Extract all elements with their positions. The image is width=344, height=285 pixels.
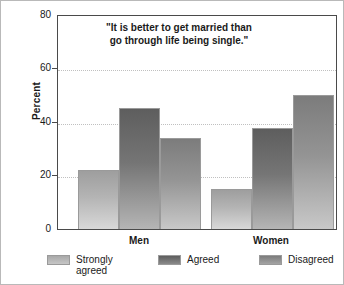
legend-swatch-agreed bbox=[158, 255, 181, 265]
bar-chart-figure: Percent 80 60 40 20 0 "It is better to g… bbox=[0, 0, 344, 285]
gridline-60 bbox=[58, 70, 336, 71]
y-tick-label-20: 20 bbox=[23, 170, 51, 180]
legend-item-agreed: Agreed bbox=[158, 254, 219, 265]
legend-swatch-disagreed bbox=[259, 255, 282, 265]
legend-swatch-strongly-agreed bbox=[47, 255, 70, 265]
bar-women-agreed bbox=[252, 128, 293, 229]
legend-item-strongly-agreed: Strongly agreed bbox=[47, 254, 113, 276]
bar-men-strongly-agreed bbox=[78, 170, 119, 229]
chart-legend: Strongly agreed Agreed Disagreed bbox=[1, 254, 344, 285]
chart-title-line-1: "It is better to get married than bbox=[79, 21, 279, 34]
y-tick-label-80: 80 bbox=[23, 10, 51, 20]
chart-title-line-2: go through life being single." bbox=[79, 34, 279, 47]
y-tick-label-60: 60 bbox=[23, 63, 51, 73]
category-label-men: Men bbox=[94, 235, 184, 246]
y-tick-label-40: 40 bbox=[23, 117, 51, 127]
y-tick-label-0: 0 bbox=[23, 224, 51, 234]
bar-men-agreed bbox=[119, 108, 160, 229]
chart-title: "It is better to get married than go thr… bbox=[79, 21, 279, 47]
bar-women-disagreed bbox=[293, 95, 334, 229]
legend-label-agreed: Agreed bbox=[187, 254, 219, 265]
legend-item-disagreed: Disagreed bbox=[259, 254, 334, 265]
bar-men-disagreed bbox=[160, 138, 201, 229]
legend-label-disagreed: Disagreed bbox=[288, 254, 334, 265]
legend-label-strongly-agreed: Strongly agreed bbox=[76, 254, 113, 276]
plot-area bbox=[57, 15, 337, 230]
bar-women-strongly-agreed bbox=[211, 189, 252, 229]
category-label-women: Women bbox=[226, 235, 316, 246]
